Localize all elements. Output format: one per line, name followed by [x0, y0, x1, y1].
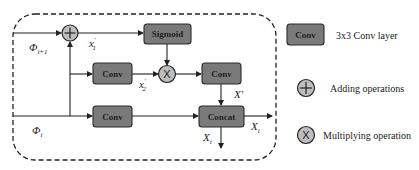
times-icon: X: [302, 129, 310, 141]
svg-text:Concat: Concat: [208, 112, 236, 122]
legend-item-conv: Conv 3x3 Conv layer: [287, 24, 398, 45]
svg-text:Conv: Conv: [295, 30, 316, 40]
label-x1-prime: x′1: [88, 36, 96, 52]
legend-item-multiply: X Multiplying operation: [298, 127, 412, 144]
svg-text:Conv: Conv: [102, 112, 123, 122]
label-x-prime: X′: [233, 88, 244, 100]
conv-block-bottom: Conv: [93, 106, 132, 127]
svg-text:Multiplying operation: Multiplying operation: [323, 130, 411, 141]
label-xi-right: Xi: [250, 120, 260, 135]
label-xi-down: Xi: [202, 131, 212, 146]
add-operation-node: [62, 25, 78, 41]
svg-text:Sigmoid: Sigmoid: [152, 29, 184, 39]
attention-fusion-diagram: X Sigmoid Conv Conv Conv Concat Φi+1 Φi …: [0, 0, 419, 170]
multiply-operation-node: X: [159, 66, 176, 83]
conv-block-middle: Conv: [93, 63, 132, 84]
concat-block: Concat: [199, 106, 244, 127]
svg-text:Conv: Conv: [102, 69, 123, 79]
label-phi-i-plus-1: Φi+1: [29, 41, 48, 56]
sigmoid-block: Sigmoid: [144, 24, 191, 44]
svg-text:3x3 Conv layer: 3x3 Conv layer: [336, 30, 398, 41]
legend-item-add: Adding operations: [298, 80, 405, 97]
label-x2-prime: x′2: [138, 77, 146, 93]
conv-block-right: Conv: [202, 63, 241, 84]
svg-text:Adding operations: Adding operations: [330, 83, 404, 94]
label-phi-i: Φi: [32, 124, 42, 139]
svg-text:Conv: Conv: [211, 69, 232, 79]
legend: Conv 3x3 Conv layer Adding operations X …: [287, 24, 411, 144]
times-icon: X: [163, 68, 171, 80]
